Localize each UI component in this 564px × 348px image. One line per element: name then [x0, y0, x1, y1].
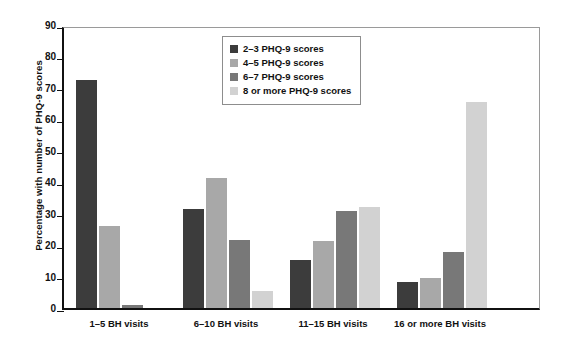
bar-group — [397, 28, 487, 308]
bar — [313, 241, 334, 308]
y-tick-mark — [57, 248, 64, 249]
y-tick-label: 90 — [24, 20, 56, 31]
bar — [290, 260, 311, 308]
y-tick-mark — [57, 279, 64, 280]
y-tick-label: 80 — [24, 51, 56, 62]
y-tick-label: 10 — [24, 272, 56, 283]
bar — [206, 178, 227, 308]
bar — [122, 305, 143, 308]
y-tick-mark — [57, 90, 64, 91]
bar — [397, 282, 418, 308]
bar — [229, 240, 250, 308]
y-tick-label: 40 — [24, 177, 56, 188]
y-tick-mark — [57, 153, 64, 154]
bar — [76, 80, 97, 308]
bar — [443, 252, 464, 308]
legend-swatch-icon — [230, 45, 238, 53]
bar-group — [76, 28, 166, 308]
legend-item: 6–7 PHQ-9 scores — [230, 70, 351, 83]
y-tick-label: 0 — [24, 303, 56, 314]
y-tick-mark — [57, 28, 64, 29]
y-tick-label: 20 — [24, 240, 56, 251]
bar — [336, 211, 357, 308]
legend-item: 2–3 PHQ-9 scores — [230, 42, 351, 55]
y-tick-label: 50 — [24, 146, 56, 157]
y-tick-mark — [57, 216, 64, 217]
legend-item: 4–5 PHQ-9 scores — [230, 56, 351, 69]
legend-label: 8 or more PHQ-9 scores — [243, 85, 351, 96]
bar — [99, 226, 120, 308]
legend-swatch-icon — [230, 59, 238, 67]
legend-swatch-icon — [230, 87, 238, 95]
bar — [183, 209, 204, 308]
y-tick-mark — [57, 185, 64, 186]
bar — [466, 102, 487, 308]
y-tick-label: 60 — [24, 114, 56, 125]
bar — [420, 278, 441, 309]
bar — [359, 207, 380, 308]
legend-swatch-icon — [230, 73, 238, 81]
y-tick-label: 30 — [24, 209, 56, 220]
legend-label: 4–5 PHQ-9 scores — [243, 57, 324, 68]
legend-label: 6–7 PHQ-9 scores — [243, 71, 324, 82]
legend-label: 2–3 PHQ-9 scores — [243, 43, 324, 54]
y-tick-mark — [57, 311, 64, 312]
y-tick-mark — [57, 122, 64, 123]
legend: 2–3 PHQ-9 scores4–5 PHQ-9 scores6–7 PHQ-… — [222, 36, 361, 105]
y-tick-label: 70 — [24, 83, 56, 94]
bar-chart: Percentage with number of PHQ-9 scores 0… — [0, 0, 564, 348]
x-axis-label: 16 or more BH visits — [360, 318, 520, 329]
bar — [252, 291, 273, 308]
y-tick-mark — [57, 59, 64, 60]
legend-item: 8 or more PHQ-9 scores — [230, 84, 351, 97]
